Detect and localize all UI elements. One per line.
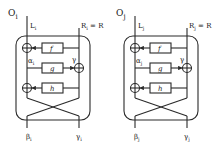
title-label: Oi [8,8,18,21]
function-label: h [158,85,163,93]
function-label: h [50,85,55,93]
alpha-label: αj [136,57,143,67]
function-label: g [158,65,163,73]
gamma-label: γ [72,56,76,64]
diagram-o-j: Oj Lj Rj = R f αj γ g h βj γj [116,8,212,143]
right-input-label: Ri = R [81,22,104,31]
diagram-o-i: Oi Li Ri = R f αi γ g h βi [8,8,104,142]
beta-label: βi [26,133,32,142]
alpha-label: αi [28,57,35,66]
left-input-label: Lj [138,22,145,32]
right-input-label: Rj = R [189,22,212,32]
feistel-diagrams: Oi Li Ri = R f αi γ g h βi [0,0,216,151]
gamma-out-label: γi [76,133,82,142]
gamma-out-label: γj [184,133,190,143]
gamma-label: γ [180,56,184,64]
left-input-label: Li [30,22,37,31]
beta-label: βj [134,133,140,143]
title-label: Oj [116,8,126,21]
function-label: g [50,65,55,73]
